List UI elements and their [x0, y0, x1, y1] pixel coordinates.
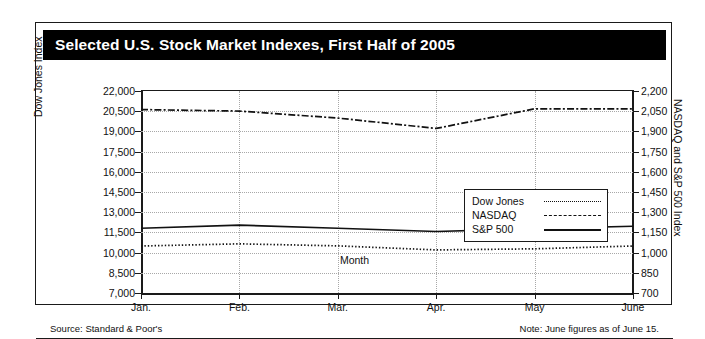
y-ticklabel-left: 19,000 [103, 126, 135, 137]
legend-swatch-dashdot-icon [544, 211, 601, 219]
june-note: Note: June figures as of June 15. [520, 323, 659, 334]
y-tick-right [633, 152, 639, 153]
y-tick-right [633, 273, 639, 274]
chart-figure: Selected U.S. Stock Market Indexes, Firs… [35, 22, 672, 305]
x-tick [338, 293, 339, 299]
x-ticklabel: Apr. [427, 301, 446, 313]
y-ticklabel-left: 22,000 [103, 86, 135, 97]
y-ticklabel-left: 8,500 [109, 268, 135, 279]
x-ticklabel: Feb. [229, 301, 250, 313]
y-tick-right [633, 253, 639, 254]
series-line-dow-jones [141, 244, 633, 250]
legend-item-sp500: S&P 500 [472, 222, 601, 236]
y-ticklabel-right: 1,300 [641, 207, 667, 218]
y-ticklabel-right: 2,200 [641, 86, 667, 97]
y-ticklabel-left: 10,000 [103, 248, 135, 259]
x-tick [633, 293, 634, 299]
y-ticklabel-right: 700 [641, 288, 659, 299]
page-title: Selected U.S. Stock Market Indexes, Firs… [43, 36, 455, 54]
series-line-nasdaq [141, 109, 633, 129]
x-ticklabel: June [622, 301, 645, 313]
legend-swatch-solid-icon [544, 225, 601, 233]
y-ticklabel-right: 1,000 [641, 248, 667, 259]
y-tick-right [633, 172, 639, 173]
chart-area: Dow Jones Index NASDAQ and S&P 500 Index… [36, 61, 673, 306]
y-ticklabel-right: 1,150 [641, 227, 667, 238]
y-tick-right [633, 192, 639, 193]
y-ticklabel-left: 17,500 [103, 147, 135, 158]
x-tick [436, 293, 437, 299]
y-tick-right [633, 91, 639, 92]
x-ticklabel: Mar. [328, 301, 348, 313]
y-tick-right [633, 232, 639, 233]
y-ticklabel-left: 20,500 [103, 106, 135, 117]
y-ticklabel-right: 1,750 [641, 147, 667, 158]
y-ticklabel-right: 850 [641, 268, 659, 279]
y-tick-right [633, 111, 639, 112]
x-tick [535, 293, 536, 299]
y-ticklabel-left: 7,000 [109, 288, 135, 299]
legend-item-dow-jones: Dow Jones [472, 194, 601, 208]
x-ticklabel: May [525, 301, 545, 313]
y-ticklabel-left: 16,000 [103, 167, 135, 178]
x-ticklabel: Jan. [131, 301, 151, 313]
y-ticklabel-right: 1,900 [641, 126, 667, 137]
x-tick [141, 293, 142, 299]
y-axis-left-ticklabels: 7,0008,50010,00011,50013,00014,50016,000… [84, 91, 135, 293]
y-ticklabel-right: 2,050 [641, 106, 667, 117]
x-tick [239, 293, 240, 299]
y-ticklabel-right: 1,450 [641, 187, 667, 198]
legend-label-dow-jones: Dow Jones [472, 195, 544, 207]
y-ticklabel-left: 14,500 [103, 187, 135, 198]
x-axis-line [141, 293, 633, 295]
legend-item-nasdaq: NASDAQ [472, 208, 601, 222]
legend-label-nasdaq: NASDAQ [472, 209, 544, 221]
y-tick-right [633, 131, 639, 132]
chart-title-bar: Selected U.S. Stock Market Indexes, Firs… [43, 30, 666, 60]
chart-legend: Dow Jones NASDAQ S&P 500 [464, 189, 608, 242]
y-ticklabel-right: 1,600 [641, 167, 667, 178]
source-note: Source: Standard & Poor's [50, 323, 162, 334]
y-axis-left-title: Dow Jones Index [32, 36, 44, 117]
y-ticklabel-left: 11,500 [104, 227, 135, 238]
y-tick-right [633, 212, 639, 213]
legend-swatch-dotted-icon [544, 197, 601, 205]
y-ticklabel-left: 13,000 [103, 207, 135, 218]
legend-label-sp500: S&P 500 [472, 223, 544, 235]
y-axis-right-ticklabels: 7008501,0001,1501,3001,4501,6001,7501,90… [641, 91, 681, 293]
